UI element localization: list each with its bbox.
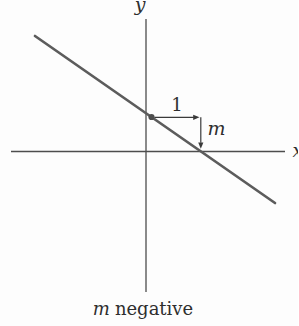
caption: mnegative xyxy=(93,298,193,319)
x-axis-label: x xyxy=(293,139,299,161)
diagram-canvas: y x 1 m mnegative xyxy=(0,0,298,326)
slope-diagram: y x 1 m mnegative xyxy=(0,0,298,326)
caption-text: negative xyxy=(115,298,193,319)
run-label: 1 xyxy=(171,94,182,115)
run-arrowhead-icon xyxy=(193,115,199,120)
point-marker xyxy=(148,114,154,120)
rise-arrowhead-icon xyxy=(198,142,203,148)
negative-slope-line xyxy=(35,36,275,203)
rise-label: m xyxy=(208,117,226,139)
y-axis-label: y xyxy=(134,0,146,15)
caption-variable: m xyxy=(93,298,110,319)
